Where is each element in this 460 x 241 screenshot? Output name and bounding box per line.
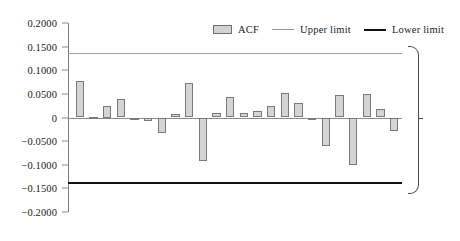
y-tick-label: 0.0500	[28, 88, 57, 99]
acf-bar	[390, 118, 398, 131]
upper-limit-line	[68, 53, 402, 54]
acf-bar	[267, 106, 275, 117]
acf-bar	[171, 114, 179, 118]
acf-bar	[89, 117, 97, 119]
y-tick-label: 0.1500	[28, 41, 57, 52]
y-tick-label: −0.1500	[22, 183, 58, 194]
acf-bar	[294, 103, 302, 117]
acf-bar	[158, 118, 166, 134]
acf-bar	[144, 118, 152, 121]
plot-area	[68, 23, 402, 212]
acf-bar	[281, 93, 289, 118]
acf-bar	[226, 97, 234, 117]
acf-bar	[240, 113, 248, 117]
y-tick-label: 0	[52, 112, 57, 123]
y-tick-label: −0.0500	[22, 136, 58, 147]
acf-bar	[212, 113, 220, 118]
confidence-brace-nub-icon	[418, 118, 423, 119]
acf-bar	[308, 118, 316, 120]
acf-bar	[103, 106, 111, 118]
acf-bar	[199, 118, 207, 161]
acf-bar	[363, 94, 371, 117]
acf-bar	[349, 118, 357, 165]
lower-limit-line	[68, 182, 402, 184]
acf-bar	[76, 81, 84, 118]
confidence-interval-label: 95% Confidence Interval	[404, 0, 434, 40]
acf-bar	[322, 118, 330, 146]
acf-bar	[376, 109, 384, 117]
y-tick-label: 0.2000	[28, 18, 57, 29]
acf-bar	[335, 95, 343, 118]
y-tick-label: 0.1000	[28, 65, 57, 76]
y-tick-label: −0.1000	[22, 159, 58, 170]
acf-bar	[185, 83, 193, 117]
acf-chart: ACF Upper limit Lower limit 0.20000.1500…	[0, 0, 460, 241]
acf-bar	[117, 99, 125, 117]
acf-bar	[130, 118, 138, 120]
confidence-brace-icon	[408, 46, 419, 194]
y-axis: 0.20000.15000.10000.05000−0.0500−0.1000−…	[0, 0, 68, 241]
y-tick-label: −0.2000	[22, 207, 58, 218]
acf-bar	[253, 111, 261, 118]
